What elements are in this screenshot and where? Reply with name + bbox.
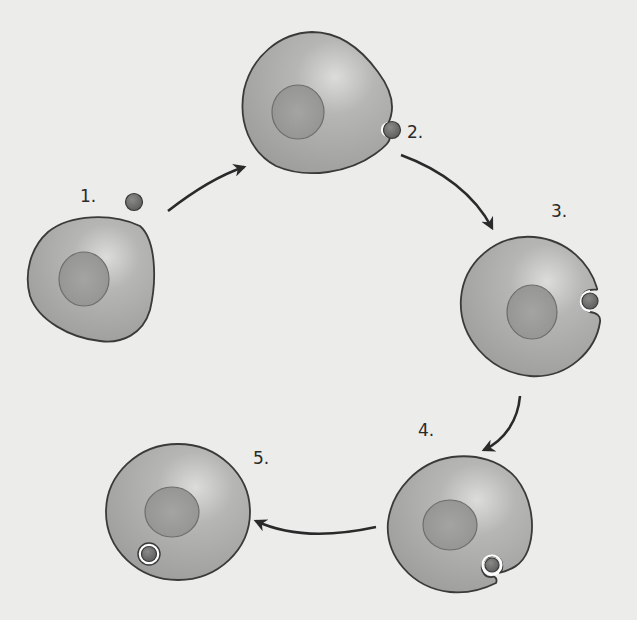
particle (142, 547, 157, 562)
particle (384, 122, 401, 139)
nucleus (59, 252, 109, 306)
step-label-1: 1. (80, 188, 96, 205)
step-label-2: 2. (407, 124, 423, 141)
arrow-step-2-to-3 (401, 155, 492, 228)
cell-step-5 (106, 444, 250, 580)
step-label-3: 3. (551, 203, 567, 220)
endocytosis-diagram: 1. 2. 3. 4. 5. (0, 0, 637, 620)
nucleus (272, 85, 324, 139)
step-label-4: 4. (418, 422, 434, 439)
cell-step-2 (242, 32, 400, 173)
cell-step-4 (388, 456, 532, 592)
cell-step-1 (28, 194, 154, 342)
particle (485, 558, 499, 572)
cell-step-3 (461, 237, 600, 376)
arrow-step-1-to-2 (168, 167, 244, 211)
arrow-step-4-to-5 (256, 521, 376, 534)
nucleus (145, 487, 199, 537)
diagram-canvas (0, 0, 637, 620)
particle (126, 194, 143, 211)
step-label-5: 5. (253, 450, 269, 467)
nucleus (423, 500, 477, 550)
nucleus (507, 285, 557, 339)
particle (582, 293, 598, 309)
arrow-step-3-to-4 (484, 396, 520, 450)
